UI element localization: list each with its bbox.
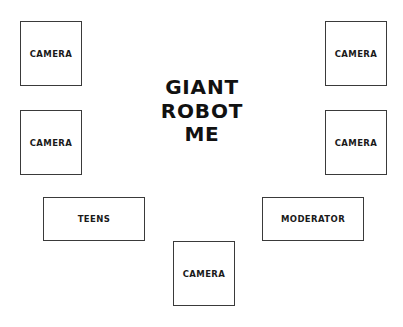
camera-box-mid-right: CAMERA [325,110,387,175]
title-line-3: ME [140,123,264,147]
title-line-2: ROBOT [140,100,264,124]
camera-box-bottom: CAMERA [173,241,235,306]
camera-label: CAMERA [30,49,73,59]
camera-label: CAMERA [30,138,73,148]
teens-box: TEENS [43,197,145,241]
teens-label: TEENS [78,214,111,224]
moderator-label: MODERATOR [281,214,345,224]
camera-label: CAMERA [335,49,378,59]
camera-box-top-right: CAMERA [325,21,387,86]
title-line-1: GIANT [140,76,264,100]
camera-label: CAMERA [183,269,226,279]
camera-box-top-left: CAMERA [20,21,82,86]
camera-box-mid-left: CAMERA [20,110,82,175]
center-title: GIANT ROBOT ME [140,76,264,147]
camera-label: CAMERA [335,138,378,148]
moderator-box: MODERATOR [262,197,364,241]
